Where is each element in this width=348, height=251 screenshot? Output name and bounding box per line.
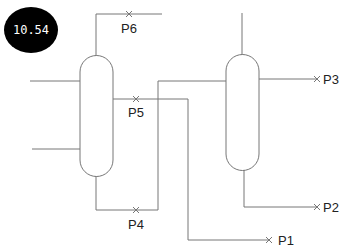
line-p4 [96,81,226,210]
x-markers [126,11,320,243]
process-diagram [0,0,348,251]
port-label-p6: P6 [121,22,137,35]
port-label-p5: P5 [128,106,144,119]
port-label-p2: P2 [323,201,339,214]
port-label-p3: P3 [323,73,339,86]
left-vessel [80,56,113,177]
port-label-p4: P4 [128,218,144,231]
right-vessel [226,55,259,171]
line-p2 [244,170,318,207]
port-label-p1: P1 [278,234,294,247]
